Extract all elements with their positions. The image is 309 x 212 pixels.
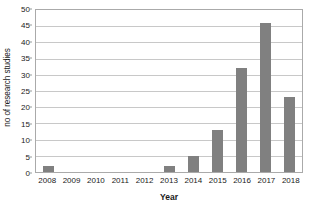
- bar-slot: [133, 10, 157, 172]
- bar-slot: [60, 10, 84, 172]
- y-axis-tick-labels: 05101520253035404550: [13, 9, 32, 173]
- bar: [284, 97, 295, 172]
- x-tick-label: 2010: [84, 176, 108, 189]
- bar-slot: [157, 10, 181, 172]
- x-tick-label: 2012: [132, 176, 156, 189]
- y-axis-title-label: no of research studies: [3, 48, 12, 126]
- bar: [164, 166, 175, 172]
- x-tick-label: 2017: [254, 176, 278, 189]
- y-tick-mark: [29, 74, 32, 75]
- bar: [43, 166, 54, 172]
- x-tick-label: 2008: [35, 176, 59, 189]
- y-tick-mark: [29, 173, 32, 174]
- plot-area: [35, 9, 303, 173]
- bar-slot: [254, 10, 278, 172]
- y-tick-mark: [29, 123, 32, 124]
- bar: [236, 68, 247, 172]
- bar-slot: [278, 10, 302, 172]
- y-tick-mark: [29, 140, 32, 141]
- bar-slot: [181, 10, 205, 172]
- x-tick-label: 2014: [181, 176, 205, 189]
- bar-slot: [109, 10, 133, 172]
- y-tick-mark: [29, 41, 32, 42]
- bar: [260, 23, 271, 172]
- bar-slot: [205, 10, 229, 172]
- x-tick-label: 2009: [59, 176, 83, 189]
- x-tick-label: 2011: [108, 176, 132, 189]
- bar-slot: [36, 10, 60, 172]
- bar: [212, 130, 223, 172]
- bar-chart: no of research studies 05101520253035404…: [0, 0, 309, 212]
- y-tick-mark: [29, 91, 32, 92]
- x-tick-label: 2016: [230, 176, 254, 189]
- y-tick-mark: [29, 25, 32, 26]
- x-tick-label: 2013: [157, 176, 181, 189]
- bar-slot: [84, 10, 108, 172]
- x-tick-label: 2015: [206, 176, 230, 189]
- y-axis-title: no of research studies: [0, 0, 14, 175]
- x-tick-label: 2018: [279, 176, 303, 189]
- y-tick-mark: [29, 58, 32, 59]
- y-tick-mark: [29, 156, 32, 157]
- bar-slot: [230, 10, 254, 172]
- x-axis-tick-labels: 2008200920102011201220132014201520162017…: [35, 176, 303, 189]
- y-tick-mark: [29, 107, 32, 108]
- bars-layer: [36, 10, 302, 172]
- bar: [188, 156, 199, 172]
- y-tick-mark: [29, 9, 32, 10]
- x-axis-title: Year: [35, 192, 303, 202]
